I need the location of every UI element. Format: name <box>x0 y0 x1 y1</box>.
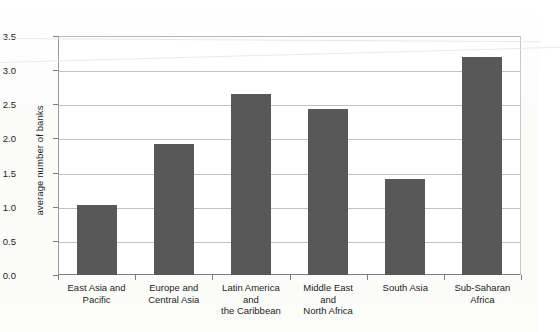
x-axis-category-label: Latin Americaandthe Caribbean <box>212 282 289 317</box>
y-tick-label: 0.5 <box>0 235 16 246</box>
y-tick-label: 1.0 <box>0 201 16 212</box>
y-tick-label: 2.5 <box>0 99 16 110</box>
y-tick-label: 1.5 <box>0 167 16 178</box>
x-tick-mark <box>212 275 213 280</box>
x-axis-category-label: East Asia andPacific <box>58 282 135 305</box>
x-tick-mark <box>367 275 368 280</box>
y-axis-title: average number of banks <box>34 66 45 256</box>
bar <box>462 57 502 276</box>
bar <box>385 179 425 275</box>
x-tick-mark <box>444 275 445 280</box>
y-tick-label: 2.0 <box>0 133 16 144</box>
x-axis-category-label: Sub-SaharanAfrica <box>444 282 521 305</box>
x-tick-mark <box>290 275 291 280</box>
y-tick-label: 3.5 <box>0 31 16 42</box>
x-axis-category-label: South Asia <box>367 282 444 294</box>
bar <box>154 144 194 275</box>
x-tick-mark <box>135 275 136 280</box>
x-axis-labels: East Asia andPacificEurope andCentral As… <box>58 282 521 330</box>
y-tick-label: 3.0 <box>0 65 16 76</box>
bar <box>231 94 271 275</box>
bar <box>308 109 348 275</box>
y-tick-label: 0.0 <box>0 270 16 281</box>
x-tick-mark <box>521 275 522 280</box>
bars-layer <box>58 36 521 275</box>
x-axis-category-label: Middle EastandNorth Africa <box>290 282 367 317</box>
x-axis-category-label: Europe andCentral Asia <box>135 282 212 305</box>
bar <box>77 205 117 275</box>
x-tick-mark <box>58 275 59 280</box>
